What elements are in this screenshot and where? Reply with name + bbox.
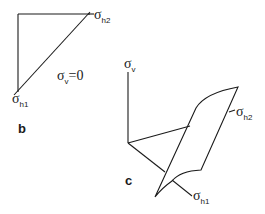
panel-c-h2-tick: [229, 110, 235, 112]
panel-c-sigma-h1-label: σh1: [193, 188, 210, 206]
panel-c-yield-surface: [155, 87, 238, 197]
panel-b: σh2 σv=0 σh1 b: [12, 7, 111, 136]
panel-b-sigma-h2-label: σh2: [94, 7, 111, 25]
panel-c: σv σh2 σh1 c: [124, 56, 253, 206]
panel-c-sigma-h1-axis-back: [128, 143, 165, 172]
diagram-canvas: σh2 σv=0 σh1 b σv σh2 σh1 c: [0, 0, 265, 214]
panel-c-sigma-h2-label: σh2: [236, 104, 253, 122]
panel-c-label: c: [125, 173, 132, 188]
panel-c-sigma-h1-axis-front: [172, 180, 192, 196]
panel-b-sigma-h1-label: σh1: [12, 91, 29, 109]
panel-b-label: b: [18, 121, 26, 136]
panel-b-condition-label: σv=0: [57, 68, 83, 86]
panel-c-sigma-v-label: σv: [124, 56, 136, 74]
